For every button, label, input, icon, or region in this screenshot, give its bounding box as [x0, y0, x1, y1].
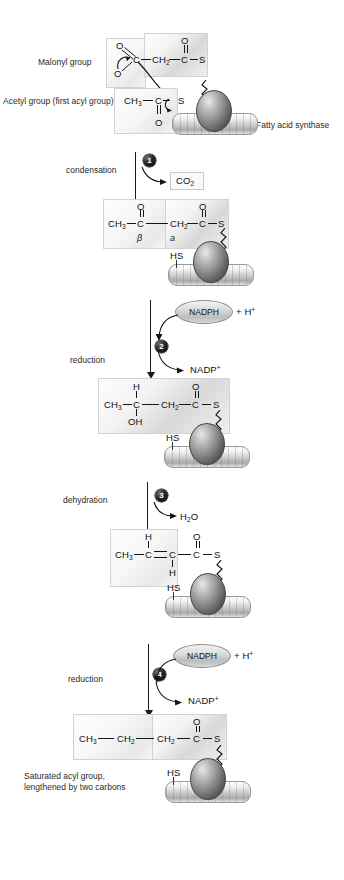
- butyryl-ch3: CH3: [79, 733, 97, 745]
- enoyl-h-bottom: H: [169, 567, 176, 578]
- ketoacyl-ch3: CH3: [108, 218, 126, 230]
- bond-h-cc-o-b: [198, 391, 199, 398]
- bond-e-c2-h: [172, 560, 173, 567]
- bond-e-cc-o-b: [199, 541, 200, 548]
- co2-label: CO2: [176, 175, 194, 187]
- bond-b-ch3-ch2a: [98, 738, 114, 739]
- nadph-pill-2: NADPH: [175, 300, 233, 324]
- ketoacyl-c-alpha: C: [199, 218, 206, 229]
- acetyl-group-label: Acetyl group (first acyl group): [3, 96, 114, 107]
- enoyl-s: S: [214, 549, 220, 560]
- hydroxyacyl-s: S: [213, 399, 219, 410]
- bond-c2-o-b: [187, 45, 188, 53]
- nadph-proton-4: + H+: [234, 650, 253, 661]
- acp-sphere-4: [190, 758, 226, 800]
- bond-acetyl-co-b: [160, 105, 161, 114]
- step-4-arrow: [148, 644, 149, 710]
- hs-connector-1: [176, 260, 177, 268]
- enoyl-ch3: CH3: [115, 549, 133, 561]
- bond-acetyl-co-a: [157, 105, 158, 114]
- hydroxyacyl-oh: OH: [128, 416, 142, 427]
- acp-sphere-3: [190, 573, 226, 615]
- step-2-arrow: [150, 300, 151, 372]
- hs-connector-4: [173, 777, 174, 785]
- bond-h-cc-s: [202, 404, 211, 405]
- butyryl-ch2-b: CH2: [157, 733, 175, 745]
- enoyl-c-carbonyl: C: [193, 549, 200, 560]
- acetyl-ch3: CH3: [124, 95, 142, 107]
- step-3-arrow: [147, 482, 148, 530]
- step-1-arrow: [135, 152, 136, 200]
- bond-e-cc-o-a: [196, 541, 197, 548]
- ketoacyl-ch2: CH2: [170, 218, 188, 230]
- acetyl-o: O: [155, 117, 163, 128]
- malonyl-group-label: Malonyl group: [38, 57, 91, 68]
- malonyl-s: S: [199, 54, 205, 65]
- acp-sphere-1: [193, 241, 229, 283]
- nadph-proton-2: + H+: [236, 306, 255, 317]
- water-byproduct-label: H2O: [180, 511, 198, 523]
- nadp-plus-4: NADP+: [188, 695, 219, 706]
- bond-k-cb-o-b: [143, 210, 144, 217]
- bond-e-c2-cc: [178, 554, 191, 555]
- bond-e-c1-h: [148, 541, 149, 548]
- bond-b-c-o-b: [199, 726, 200, 732]
- bond-h-ch3-c: [123, 404, 132, 405]
- butyryl-ch2-a: CH2: [117, 733, 135, 745]
- step-2-cofactor-out-arrow: [156, 348, 190, 376]
- bond-k-ca-s: [208, 223, 217, 224]
- bond-c2-s: [190, 59, 198, 60]
- bond-e-ch3-c1: [134, 554, 144, 555]
- bond-c2-o-a: [184, 45, 185, 53]
- bond-h-ch2-cc: [179, 404, 191, 405]
- butyryl-s: S: [214, 733, 220, 744]
- fatty-acid-synthase-label: Fatty acid synthase: [256, 120, 329, 131]
- step-1-name: condensation: [66, 165, 117, 176]
- bond-e-c1-c2-a: [154, 551, 167, 552]
- bond-k-ch3-cb: [127, 223, 136, 224]
- bond-k-ca-o-a: [202, 210, 203, 217]
- hydroxyacyl-ch3: CH3: [104, 399, 122, 411]
- hydroxyacyl-ch2: CH2: [161, 399, 179, 411]
- bond-h-cc-o-a: [195, 391, 196, 398]
- hydroxyacyl-c-carbonyl: C: [192, 399, 199, 410]
- nadph-pill-4: NADPH: [173, 644, 231, 668]
- hs-connector-2: [172, 442, 173, 450]
- final-caption-line-2: lengthened by two carbons: [24, 782, 126, 793]
- bond-h-c-h: [136, 391, 137, 398]
- step-3-name: dehydration: [63, 495, 107, 506]
- bond-h-c-ch2: [142, 404, 159, 405]
- final-caption-line-1: Saturated acyl group,: [24, 771, 105, 782]
- acp-sphere-2: [189, 423, 225, 465]
- step-3-byproduct-arrow: [152, 500, 182, 522]
- bond-b-c-s: [203, 738, 212, 739]
- bond-e-c1-c2-b: [154, 557, 167, 558]
- bond-k-ca-o-b: [205, 210, 206, 217]
- ketoacyl-alpha-label: a: [170, 233, 175, 243]
- step-4-cofactor-out-arrow: [154, 680, 188, 708]
- hs-connector-3: [173, 592, 174, 600]
- step-2-name: reduction: [70, 355, 105, 366]
- butyryl-c: C: [193, 733, 200, 744]
- bond-b-c-o-a: [196, 726, 197, 732]
- bond-h-c-oh: [136, 409, 137, 416]
- bond-acetyl-ch3-c: [143, 100, 153, 101]
- ketoacyl-c-beta: C: [137, 218, 144, 229]
- bond-e-cc-s: [203, 554, 212, 555]
- step-1-byproduct-arrow: [140, 165, 172, 189]
- step-2-cofactor-in-arrow: [154, 313, 182, 345]
- bond-k-cb-o-a: [140, 210, 141, 217]
- ketoacyl-beta-label: β: [137, 233, 142, 243]
- bond-k-cb-ch2: [146, 223, 168, 224]
- acp-sphere-0: [196, 90, 232, 132]
- enoyl-c2: C: [169, 549, 176, 560]
- nadp-plus-2: NADP+: [190, 364, 221, 375]
- bond-b-ch2a-ch2b: [136, 738, 154, 739]
- bond-k-ch2-ca: [187, 223, 198, 224]
- enoyl-c1: C: [145, 549, 152, 560]
- fatty-acid-synthesis-diagram: Malonyl group Acetyl group (first acyl g…: [0, 0, 344, 880]
- step-4-name: reduction: [68, 674, 103, 685]
- bond-b-ch2b-c: [177, 738, 190, 739]
